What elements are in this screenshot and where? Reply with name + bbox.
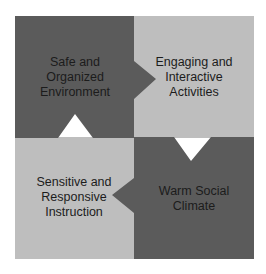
label-line: Safe and (40, 55, 110, 70)
label-sensitive-and-responsive-instruction: Sensitive and Responsive Instruction (36, 175, 111, 220)
label-line: Interactive (155, 70, 232, 85)
label-line: Environment (40, 85, 110, 100)
label-safe-and-organized-environment: Safe and Organized Environment (40, 55, 110, 100)
label-line: Sensitive and (36, 175, 111, 190)
label-line: Engaging and (155, 55, 232, 70)
label-line: Climate (159, 199, 229, 214)
diagram-shapes (0, 0, 266, 274)
label-line: Organized (40, 70, 110, 85)
label-warm-social-climate: Warm Social Climate (159, 184, 229, 214)
label-line: Warm Social (159, 184, 229, 199)
label-line: Instruction (36, 205, 111, 220)
label-line: Responsive (36, 190, 111, 205)
label-engaging-and-interactive-activities: Engaging and Interactive Activities (155, 55, 232, 100)
label-line: Activities (155, 85, 232, 100)
cycle-diagram: Safe and Organized Environment Engaging … (0, 0, 266, 274)
